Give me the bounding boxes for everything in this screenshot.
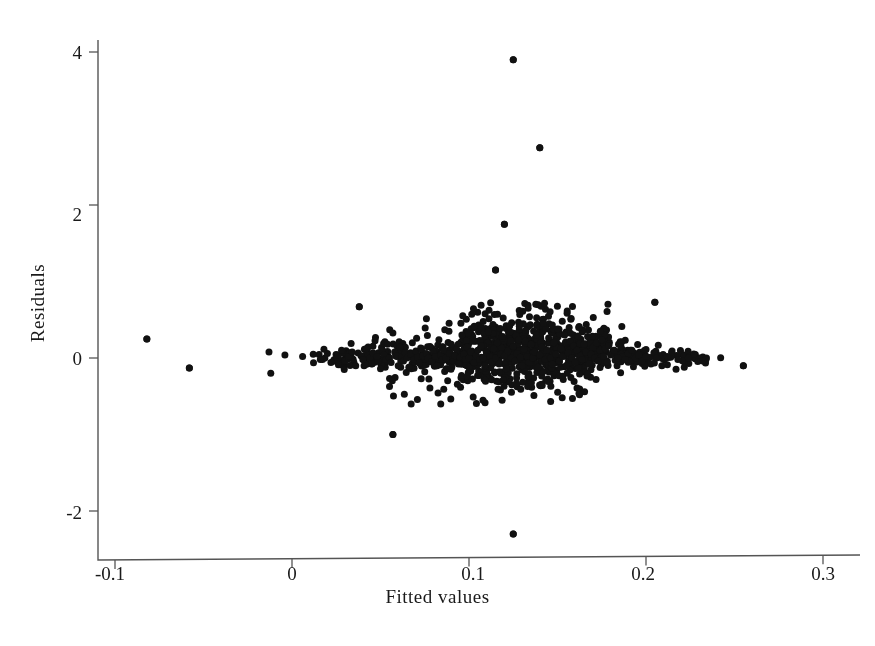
scatter-plot-canvas (0, 0, 875, 646)
x-tick-label-0.2: 0.2 (603, 563, 683, 585)
x-tick-label-0.3: 0.3 (783, 563, 863, 585)
x-tick-label-neg0.1: -0.1 (70, 563, 150, 585)
x-tick-label-0: 0 (252, 563, 332, 585)
y-tick-label-neg2: -2 (22, 502, 82, 524)
y-axis-title: Residuals (27, 203, 49, 403)
residual-plot: 4 2 0 -2 -0.1 0 0.1 0.2 0.3 Fitted value… (0, 0, 875, 646)
x-tick-label-0.1: 0.1 (433, 563, 513, 585)
y-tick-label-4: 4 (22, 42, 82, 64)
x-axis-title: Fitted values (0, 586, 875, 608)
